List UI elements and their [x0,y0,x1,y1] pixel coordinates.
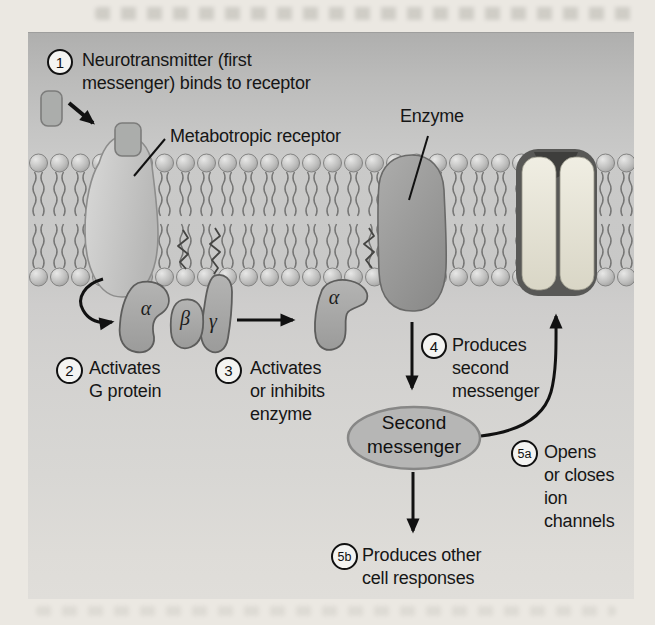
ion-channel-pore-right [560,157,594,290]
second-messenger-label: Second messenger [348,411,480,459]
step-text-4: Produces second messenger [452,334,539,403]
step-badge-1: 1 [47,49,73,75]
textbook-page: 1 2 3 4 5a 5b Neurotransmitter (first me… [0,0,655,625]
step-badge-5b: 5b [331,543,358,570]
step-text-5b: Produces other cell responses [362,544,481,590]
enzyme-label: Enzyme [400,105,464,128]
step-text-5a: Opens or closes ion channels [544,441,614,533]
neurotransmitter-bound [115,123,141,156]
activated-alpha-subunit [315,280,367,350]
step-badge-4: 4 [421,333,447,359]
step-badge-3: 3 [215,357,242,384]
step-badge-5a: 5a [511,440,538,467]
neurotransmitter-free [41,91,62,126]
ion-channel-pore-left [522,157,556,290]
ion-channel [516,149,597,296]
alpha-subunit-label: α [141,297,152,320]
enzyme-shape [378,155,446,311]
step-text-3: Activates or inhibits enzyme [250,357,325,426]
gamma-subunit-label: γ [209,310,217,333]
activated-alpha-label: α [329,286,340,309]
binding-arrow [69,103,93,123]
beta-subunit-label: β [180,307,190,330]
step-text-2: Activates G protein [89,357,161,403]
step-badge-2: 2 [56,357,83,384]
step-text-1: Neurotransmitter (first messenger) binds… [82,49,311,95]
metabotropic-receptor-label: Metabotropic receptor [170,125,341,148]
